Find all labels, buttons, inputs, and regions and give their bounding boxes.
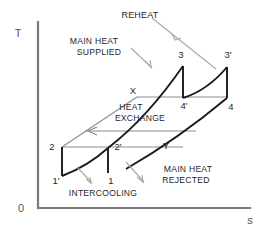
state-label-2: 2	[49, 141, 54, 152]
annotation-intercooling: INTERCOOLING	[69, 188, 137, 198]
annotation-reheat: REHEAT	[121, 10, 158, 20]
y-axis-label: T	[15, 27, 22, 39]
state-label-3prime: 3'	[224, 49, 231, 60]
state-label-4: 4	[228, 101, 233, 112]
state-label-Y: Y	[163, 140, 170, 151]
process-1prime-to-2prime	[62, 148, 108, 176]
ts-diagram-canvas: T s 0 1' 1 2 2' 3 3' 4 4' X Y REHEAT MAI…	[0, 0, 265, 239]
main-heat-rejected-leader-line	[126, 162, 144, 182]
annotation-main-heat-rejected-line2: REJECTED	[162, 175, 209, 185]
annotation-main-heat-rejected-line1: MAIN HEAT	[164, 164, 213, 174]
state-label-3: 3	[178, 49, 183, 60]
annotation-main-heat-supplied-line1: MAIN HEAT	[70, 36, 119, 46]
state-label-2prime: 2'	[114, 141, 121, 152]
state-label-X: X	[130, 85, 137, 96]
annotation-main-heat-supplied-line2: SUPPLIED	[77, 47, 122, 57]
state-label-4prime: 4'	[180, 100, 187, 111]
ts-diagram: T s 0 1' 1 2 2' 3 3' 4 4' X Y REHEAT MAI…	[0, 0, 265, 239]
x-axis-label: s	[247, 214, 253, 226]
main-heat-supplied-arrowhead	[145, 60, 151, 67]
annotation-heat-exchange-line1: HEAT	[119, 102, 143, 112]
reheat-leader-line	[152, 18, 216, 69]
state-label-1prime: 1'	[52, 175, 59, 186]
annotation-heat-exchange-line2: EXCHANGE	[115, 113, 165, 123]
origin-label: 0	[18, 202, 24, 214]
process-4prime-to-3prime	[183, 67, 227, 98]
state-label-1: 1	[108, 175, 113, 186]
intercooling-leader-line	[77, 167, 92, 183]
